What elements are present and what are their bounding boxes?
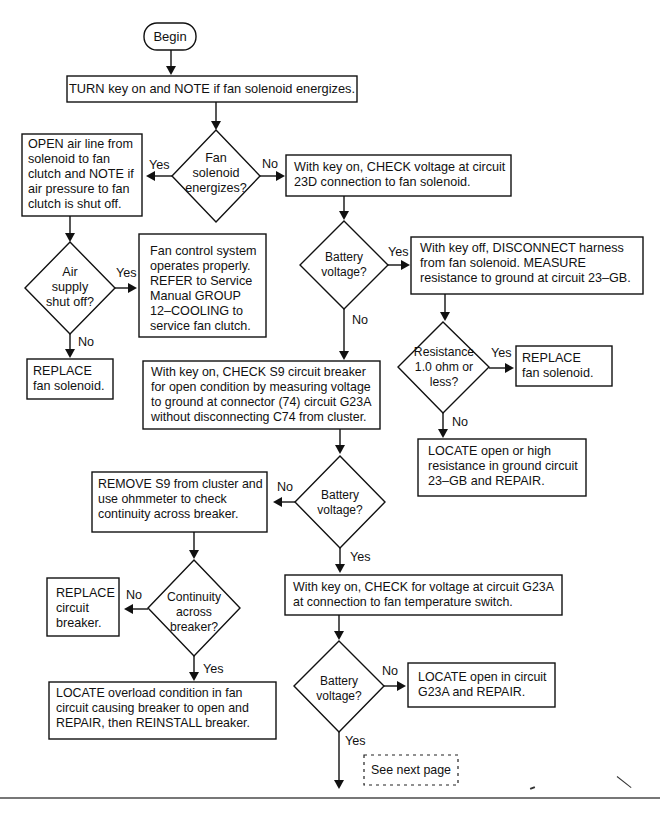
text-line: REPLACE — [56, 586, 121, 601]
edge-label-yes: Yes — [203, 662, 224, 676]
text-line: circuit causing breaker to open and — [56, 701, 281, 716]
fan-control-ok-text: Fan control system operates properly. RE… — [150, 244, 265, 334]
decision-line: across — [158, 605, 230, 620]
locate-23gb-text: LOCATE open or high resistance in ground… — [428, 444, 588, 489]
edge-label-no: No — [262, 157, 278, 171]
text-line: fan solenoid. — [522, 366, 612, 381]
arrowhead-icon — [276, 171, 285, 181]
text-line: solenoid to fan — [28, 152, 143, 167]
text-line: REPAIR, then REINSTALL breaker. — [56, 716, 281, 731]
turn-key-text: TURN key on and NOTE if fan solenoid ene… — [67, 81, 357, 96]
text-line: REFER to Service — [150, 274, 265, 289]
decision-line: Battery — [305, 488, 375, 503]
arrowhead-icon — [438, 429, 448, 438]
open-air-line-text: OPEN air line from solenoid to fan clutc… — [28, 137, 143, 212]
arrowhead-icon — [335, 445, 345, 454]
decision-line: voltage? — [304, 689, 374, 704]
edge-label-no: No — [277, 480, 293, 494]
battery-voltage-decision-3-text: Battery voltage? — [304, 674, 374, 704]
decision-line: Battery — [304, 674, 374, 689]
text-line: resistance in ground circuit — [428, 459, 588, 474]
text-line: circuit — [56, 601, 121, 616]
continuity-decision-text: Continuity across breaker? — [158, 590, 230, 635]
decision-line: supply — [35, 280, 105, 295]
edge-label-no: No — [382, 664, 398, 678]
locate-g23a-text: LOCATE open in circuit G23A and REPAIR. — [418, 670, 558, 700]
text-line: REPLACE — [522, 351, 612, 366]
text-line: resistance to ground at circuit 23–GB. — [420, 271, 645, 286]
arrowhead-icon — [65, 233, 75, 242]
text-line: OPEN air line from — [28, 137, 143, 152]
decision-line: Continuity — [158, 590, 230, 605]
text-line: air pressure to fan — [28, 182, 143, 197]
text-line: from fan solenoid. MEASURE — [420, 256, 645, 271]
decision-line: Fan — [180, 151, 252, 166]
arrowhead-icon — [146, 171, 155, 181]
text-line: clutch and NOTE if — [28, 167, 143, 182]
text-line: operates properly. — [150, 259, 265, 274]
edge-label-no: No — [126, 588, 142, 602]
check-s9-text: With key on, CHECK S9 circuit breaker fo… — [151, 365, 381, 425]
text-line: use ohmmeter to check — [98, 492, 268, 507]
text-line: LOCATE open or high — [428, 444, 588, 459]
replace-fan-solenoid-text-1: REPLACE fan solenoid. — [33, 364, 113, 394]
decision-line: energizes? — [180, 181, 252, 196]
locate-overload-text: LOCATE overload condition in fan circuit… — [56, 686, 281, 731]
text-line: With key on, CHECK for voltage at circui… — [293, 580, 568, 595]
arrowhead-icon — [397, 681, 406, 691]
text-line: REPLACE — [33, 364, 113, 379]
text-line: clutch is shut off. — [28, 197, 143, 212]
arrowhead-icon — [335, 564, 345, 573]
arrowhead-icon — [65, 349, 75, 358]
text-line: 23–GB and REPAIR. — [428, 474, 588, 489]
arrowhead-icon — [211, 121, 221, 130]
check-g23a-text: With key on, CHECK for voltage at circui… — [293, 580, 568, 610]
edge-label-yes: Yes — [388, 245, 409, 259]
arrowhead-icon — [334, 780, 344, 789]
decision-line: Resistance — [403, 345, 485, 360]
arrowhead-icon — [334, 631, 344, 640]
decision-line: Battery — [309, 250, 379, 265]
decision-line: voltage? — [309, 265, 379, 280]
arrowhead-icon — [401, 260, 410, 270]
text-line: breaker. — [56, 616, 121, 631]
battery-voltage-decision-2-text: Battery voltage? — [305, 488, 375, 518]
text-line: service fan clutch. — [150, 319, 265, 334]
arrowhead-icon — [339, 351, 349, 360]
arrowhead-icon — [128, 283, 137, 293]
air-supply-decision-text: Air supply shut off? — [35, 265, 105, 310]
arrowhead-icon — [189, 672, 199, 681]
text-line: to ground at connector (74) circuit G23A — [151, 395, 381, 410]
check-23d-text: With key on, CHECK voltage at circuit 23… — [294, 160, 509, 190]
text-line: LOCATE open in circuit — [418, 670, 558, 685]
text-line: for open condition by measuring voltage — [151, 380, 381, 395]
edge-label-yes: Yes — [491, 346, 512, 360]
arrowhead-icon — [339, 211, 349, 220]
decision-line: less? — [403, 375, 485, 390]
text-line: Fan control system — [150, 244, 265, 259]
text-line: continuity across breaker. — [98, 507, 268, 522]
text-line: Manual GROUP — [150, 289, 265, 304]
decision-line: 1.0 ohm or — [403, 360, 485, 375]
replace-fan-solenoid-text-2: REPLACE fan solenoid. — [522, 351, 612, 381]
edge-label-no: No — [452, 415, 468, 429]
edge-label-yes: Yes — [345, 734, 366, 748]
decision-line: voltage? — [305, 503, 375, 518]
page-divider — [0, 797, 660, 799]
text-line: G23A and REPAIR. — [418, 685, 558, 700]
arrowhead-icon — [505, 363, 514, 373]
fan-solenoid-decision-text: Fan solenoid energizes? — [180, 151, 252, 196]
text-line: With key on, CHECK S9 circuit breaker — [151, 365, 381, 380]
text-line: 23D connection to fan solenoid. — [294, 175, 509, 190]
decision-line: Air — [35, 265, 105, 280]
arrowhead-icon — [273, 497, 282, 507]
replace-breaker-text: REPLACE circuit breaker. — [56, 586, 121, 631]
edge-label-no: No — [78, 335, 94, 349]
decision-line: shut off? — [35, 295, 105, 310]
arrowhead-icon — [189, 550, 199, 559]
edge-label-yes: Yes — [149, 158, 170, 172]
decision-line: solenoid — [180, 166, 252, 181]
text-line: fan solenoid. — [33, 379, 113, 394]
arrowhead-icon — [124, 604, 133, 614]
text-line: REMOVE S9 from cluster and — [98, 477, 268, 492]
